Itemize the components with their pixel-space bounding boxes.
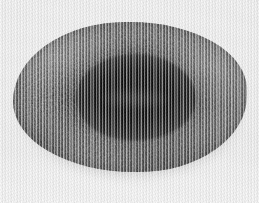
- central-dark-pit: [76, 54, 195, 141]
- specimen-edge-softening: [13, 22, 247, 172]
- pit-core-shadow: [90, 67, 179, 124]
- concentric-rim-ridges: [22, 26, 239, 169]
- specimen-group: [13, 22, 247, 172]
- surface-grain-coarse: [13, 22, 247, 172]
- image-canvas: Grayscale photograph of a rounded rough-…: [0, 0, 259, 203]
- surface-grain-fine: [13, 22, 247, 172]
- radiating-fibrous-streaks: [13, 34, 191, 160]
- specimen-shading: [13, 22, 247, 172]
- specimen-scan-striping: [13, 22, 247, 172]
- pit-inner-detail: [100, 88, 170, 109]
- oval-specimen: [13, 22, 247, 172]
